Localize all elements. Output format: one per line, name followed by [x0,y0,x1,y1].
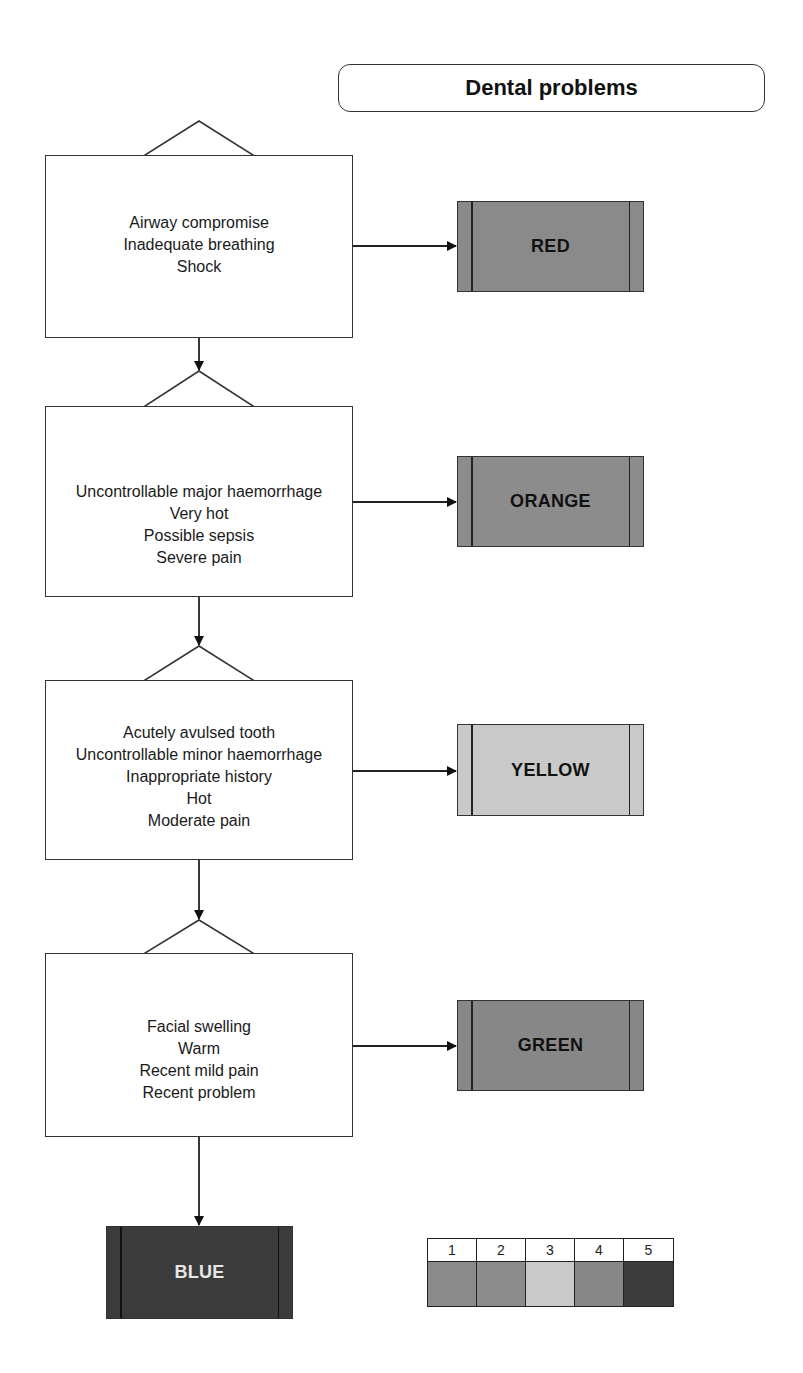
box-edge-line [471,725,473,815]
discriminator-item: Hot [45,788,353,810]
priority-box-yellow: YELLOW [457,724,644,816]
discriminator-item: Very hot [45,503,353,525]
priority-box-blue: BLUE [106,1226,293,1319]
priority-label: BLUE [174,1262,224,1283]
page-title: Dental problems [338,64,765,112]
legend-swatch [575,1262,624,1306]
discriminator-item: Uncontrollable major haemorrhage [45,481,353,503]
discriminator-item: Possible sepsis [45,525,353,547]
box-edge-line [629,725,631,815]
priority-box-green: GREEN [457,1000,644,1091]
discriminator-list-level-2: Uncontrollable major haemorrhage Very ho… [45,481,353,569]
discriminator-item: Facial swelling [45,1016,353,1038]
box-edge-line [278,1227,280,1318]
box-edge-line [471,457,473,546]
discriminator-list-level-1: Airway compromise Inadequate breathing S… [45,212,353,278]
box-edge-line [120,1227,122,1318]
legend-number: 4 [575,1239,624,1262]
legend-swatch [526,1262,575,1306]
legend-number: 2 [477,1239,526,1262]
box-edge-line [471,202,473,291]
box-edge-line [471,1001,473,1090]
box-edge-line [629,1001,631,1090]
priority-label: ORANGE [510,491,591,512]
legend-number: 1 [428,1239,477,1262]
legend-swatch [624,1262,673,1306]
priority-label: RED [531,236,570,257]
discriminator-item: Airway compromise [45,212,353,234]
legend-number: 5 [624,1239,673,1262]
discriminator-item: Recent problem [45,1082,353,1104]
priority-label: YELLOW [511,760,590,781]
discriminator-item: Shock [45,256,353,278]
discriminator-item: Acutely avulsed tooth [45,722,353,744]
discriminator-list-level-3: Acutely avulsed tooth Uncontrollable min… [45,722,353,832]
discriminator-item: Severe pain [45,547,353,569]
discriminator-item: Moderate pain [45,810,353,832]
priority-box-orange: ORANGE [457,456,644,547]
discriminator-item: Warm [45,1038,353,1060]
box-edge-line [629,457,631,546]
box-edge-line [629,202,631,291]
priority-box-red: RED [457,201,644,292]
legend-swatch [428,1262,477,1306]
discriminator-item: Recent mild pain [45,1060,353,1082]
priority-legend: 1 2 3 4 5 [427,1238,674,1307]
legend-swatch [477,1262,526,1306]
discriminator-item: Inadequate breathing [45,234,353,256]
legend-number: 3 [526,1239,575,1262]
flowchart-canvas: Dental problems Airway compromise Inadeq… [0,0,803,1373]
discriminator-item: Inappropriate history [45,766,353,788]
discriminator-list-level-4: Facial swelling Warm Recent mild pain Re… [45,1016,353,1104]
discriminator-item: Uncontrollable minor haemorrhage [45,744,353,766]
priority-label: GREEN [518,1035,584,1056]
